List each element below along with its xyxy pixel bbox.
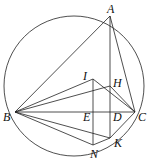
- segment-BH: [15, 86, 110, 112]
- point-label-N: N: [89, 147, 99, 161]
- point-label-H: H: [112, 76, 123, 90]
- segment-AC: [110, 16, 135, 112]
- segment-NK: [93, 138, 110, 145]
- circumcircle: [4, 16, 144, 156]
- segment-BI: [15, 79, 93, 112]
- point-label-E: E: [82, 110, 91, 124]
- segment-BK: [15, 112, 110, 138]
- segment-BN: [15, 112, 93, 145]
- geometry-diagram: ABCIHEDKN: [0, 0, 147, 161]
- segment-AB: [15, 16, 110, 112]
- point-label-D: D: [112, 110, 122, 124]
- point-label-A: A: [106, 2, 115, 16]
- point-label-B: B: [3, 110, 11, 124]
- point-label-I: I: [82, 69, 88, 83]
- point-label-K: K: [113, 136, 123, 150]
- point-label-C: C: [138, 110, 147, 124]
- diagram-canvas: ABCIHEDKN: [0, 0, 147, 161]
